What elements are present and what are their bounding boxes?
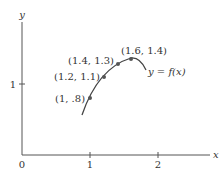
point-label-4: (1.6, 1.4) — [121, 45, 167, 56]
chart: 0 1 2 1 x y (1, .8) (1.2, 1.1) (1.4, 1.3… — [0, 0, 224, 181]
curve-label: y = f(x) — [147, 66, 186, 77]
point-1 — [88, 96, 92, 100]
point-label-1: (1, .8) — [55, 93, 85, 104]
point-label-3: (1.4, 1.3) — [68, 55, 114, 66]
y-axis-label: y — [18, 9, 25, 20]
point-3 — [116, 62, 120, 66]
x-axis-label: x — [213, 149, 219, 160]
point-2 — [102, 75, 106, 79]
x-tick-label-0: 0 — [19, 159, 25, 170]
point-label-2: (1.2, 1.1) — [54, 71, 100, 82]
point-4 — [129, 57, 133, 61]
x-tick-label-1: 1 — [87, 159, 93, 170]
curve-f — [82, 58, 146, 115]
y-tick-label-1: 1 — [10, 79, 16, 90]
x-tick-label-2: 2 — [155, 159, 161, 170]
